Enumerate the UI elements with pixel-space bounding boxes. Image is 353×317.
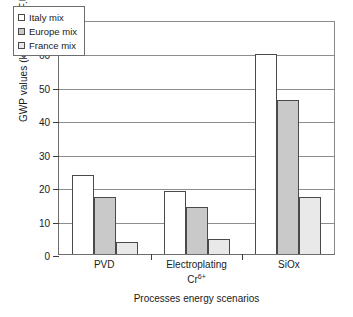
chart-figure: GWP values (kg CO2 eq/F.U) 0102030405060… — [0, 0, 353, 317]
legend-item[interactable]: Europe mix — [18, 24, 77, 38]
bar[interactable] — [208, 239, 230, 254]
plot-area: 010203040506070 — [58, 21, 335, 255]
bar-group — [151, 22, 243, 254]
bar[interactable] — [116, 242, 138, 254]
x-axis-tick-label: ElectroplatingCr6+ — [150, 259, 242, 286]
bar-groups — [59, 22, 334, 254]
bar[interactable] — [186, 207, 208, 254]
legend-swatch-icon — [18, 28, 25, 35]
y-axis-tick-label: 50 — [39, 83, 50, 94]
bar-group — [242, 22, 334, 254]
bar[interactable] — [255, 54, 277, 254]
y-axis-tick-label: 30 — [39, 150, 50, 161]
legend-item[interactable]: Italy mix — [18, 10, 77, 24]
bar[interactable] — [72, 175, 94, 254]
legend-swatch-icon — [18, 14, 25, 21]
bar[interactable] — [277, 100, 299, 254]
legend-label: France mix — [29, 40, 76, 51]
bar[interactable] — [299, 197, 321, 254]
x-axis-tick-label: PVD — [58, 259, 150, 286]
bar[interactable] — [164, 191, 186, 254]
y-axis-tick-label: 10 — [39, 217, 50, 228]
x-axis-tick-labels: PVDElectroplatingCr6+SiOx — [58, 259, 335, 286]
y-axis-tick-label: 0 — [44, 251, 50, 262]
y-axis-tick-label: 20 — [39, 184, 50, 195]
bar[interactable] — [94, 197, 116, 254]
legend-item[interactable]: France mix — [18, 38, 77, 52]
legend-label: Italy mix — [29, 12, 64, 23]
x-axis-tick-label: SiOx — [243, 259, 335, 286]
legend-swatch-icon — [18, 42, 25, 49]
legend: Italy mixEurope mixFrance mix — [13, 6, 85, 56]
x-axis-title: Processes energy scenarios — [58, 293, 335, 304]
y-axis-tick — [53, 256, 59, 257]
legend-label: Europe mix — [29, 26, 77, 37]
y-axis-tick-label: 40 — [39, 117, 50, 128]
bar-group — [59, 22, 151, 254]
